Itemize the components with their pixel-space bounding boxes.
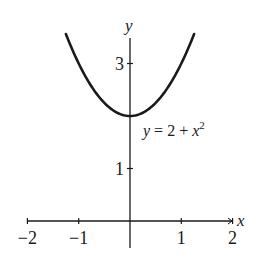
x-tick-label: −1: [69, 228, 88, 248]
y-tick-label: 3: [115, 54, 124, 74]
y-axis-label: y: [123, 16, 133, 35]
curve-label-exp: 2: [199, 119, 205, 131]
curve-label-mid: = 2 +: [150, 122, 192, 139]
x-ticks: −2−112: [18, 218, 237, 248]
x-tick-label: 2: [228, 228, 237, 248]
x-axis: −2−112 x: [18, 211, 245, 248]
x-tick-label: −2: [18, 228, 37, 248]
chart: −2−112 x 13 y y = 2 + x2: [0, 0, 256, 266]
x-axis-label: x: [236, 211, 245, 230]
curve-label-var: x: [191, 122, 199, 139]
y-axis: 13 y: [115, 16, 133, 248]
x-tick-label: 1: [177, 228, 186, 248]
curve-label: y = 2 + x2: [141, 119, 205, 140]
y-tick-label: 1: [115, 159, 124, 179]
